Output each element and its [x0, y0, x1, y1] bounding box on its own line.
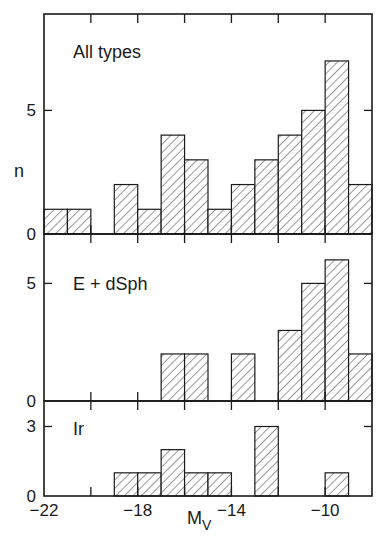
histogram-bar [278, 330, 301, 401]
histogram-bar [185, 354, 208, 401]
histogram-bar [349, 354, 372, 401]
panel-all-types: 05All types [27, 14, 372, 244]
histogram-bar [114, 473, 137, 496]
y-tick-label: 0 [27, 225, 36, 244]
panel-label: All types [73, 42, 141, 62]
histogram-bar [44, 209, 67, 234]
histogram-bar [114, 185, 137, 234]
histogram-bar [278, 135, 301, 234]
histogram-bar [138, 209, 161, 234]
histogram-bar [231, 185, 254, 234]
histogram-bar [161, 135, 184, 234]
x-tick-label: −10 [311, 501, 340, 520]
histogram-bar [185, 473, 208, 496]
histogram-bar [231, 354, 254, 401]
x-tick-label: −14 [217, 501, 246, 520]
histogram-bar [138, 473, 161, 496]
x-axis: −22−18−14−10 [30, 501, 340, 520]
y-tick-label: 3 [27, 417, 36, 436]
histogram-bar [161, 450, 184, 496]
panel-label: Ir [73, 419, 84, 439]
histogram-bar [325, 61, 348, 234]
histogram-bar [349, 185, 372, 234]
histogram-bar [302, 283, 325, 401]
histogram-bar [208, 209, 231, 234]
histogram-chart: 05All types05E + dSph03Ir −22−18−14−10 n… [0, 0, 380, 537]
y-tick-label: 5 [27, 274, 36, 293]
y-axis-label: n [14, 161, 24, 181]
panel-label: E + dSph [73, 274, 148, 294]
histogram-bar [185, 160, 208, 234]
x-tick-label: −18 [123, 501, 152, 520]
panel-e-dsph: 05E + dSph [27, 234, 372, 411]
histogram-bar [325, 473, 348, 496]
histogram-bar [161, 354, 184, 401]
histogram-bar [302, 110, 325, 234]
y-tick-label: 0 [27, 392, 36, 411]
panel-ir: 03Ir [27, 401, 372, 506]
histogram-bar [67, 209, 90, 234]
y-tick-label: 5 [27, 101, 36, 120]
histogram-bar [255, 426, 278, 496]
x-axis-label: MV [187, 508, 212, 533]
panels-group: 05All types05E + dSph03Ir [27, 14, 372, 506]
histogram-bar [255, 160, 278, 234]
histogram-bar [325, 260, 348, 401]
x-tick-label: −22 [30, 501, 59, 520]
histogram-bar [208, 473, 231, 496]
